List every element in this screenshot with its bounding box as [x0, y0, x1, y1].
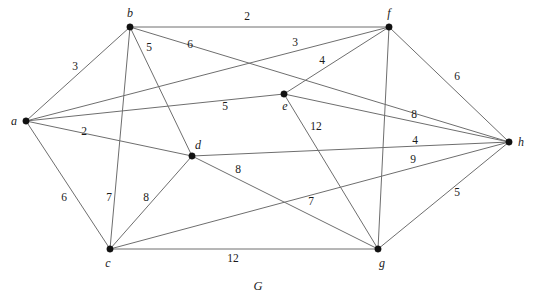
graph-vertex-a [23, 118, 29, 124]
edge-weight-bc: 7 [106, 192, 112, 204]
edge-weight-dg: 8 [235, 164, 241, 176]
figure-caption: G [253, 280, 262, 293]
graph-canvas [0, 0, 533, 303]
graph-vertex-c [107, 246, 113, 252]
graph-vertex-f [386, 24, 392, 30]
edge-weight-ae: 5 [222, 101, 228, 113]
edge-weight-ef: 4 [319, 55, 325, 67]
edge-weight-cd: 8 [143, 192, 149, 204]
edge-weight-cg: 12 [227, 253, 239, 265]
edge-weight-ab: 3 [72, 61, 78, 73]
vertex-label-g: g [379, 257, 385, 269]
vertex-label-e: e [282, 100, 287, 112]
graph-edge-fg [378, 27, 389, 249]
edges-group [26, 27, 509, 249]
edge-weight-ad: 2 [81, 126, 87, 138]
vertex-label-h: h [518, 136, 524, 148]
edge-weight-bh: 6 [187, 39, 193, 51]
graph-edge-fh [389, 27, 509, 142]
graph-edge-eh [284, 94, 509, 142]
graph-edge-dh [192, 142, 509, 156]
edge-weight-bf: 2 [244, 11, 250, 23]
edge-weight-ch: 9 [410, 154, 416, 166]
graph-edge-ab [26, 27, 130, 121]
edge-weight-eg: 12 [310, 121, 322, 133]
graph-vertex-e [281, 91, 287, 97]
graph-edge-ef [284, 27, 389, 94]
weighted-graph-figure: 3625327568129844128675abcdefghG [0, 0, 533, 303]
vertex-label-c: c [105, 257, 110, 269]
vertex-label-f: f [387, 7, 390, 19]
edge-weight-gh: 5 [454, 187, 460, 199]
graph-edge-bc [110, 27, 130, 249]
edge-weight-fg: 7 [308, 196, 314, 208]
graph-edge-af [26, 27, 389, 121]
edge-weight-ac: 6 [61, 192, 67, 204]
edge-weight-bd: 5 [146, 42, 152, 54]
edge-weight-af: 3 [292, 37, 298, 49]
graph-edge-ae [26, 94, 284, 121]
vertex-label-b: b [127, 7, 133, 19]
graph-vertex-h [506, 139, 512, 145]
graph-vertex-d [189, 153, 195, 159]
vertex-label-d: d [195, 139, 201, 151]
graph-vertex-b [127, 24, 133, 30]
graph-edge-gh [378, 142, 509, 249]
vertex-label-a: a [11, 115, 17, 127]
edge-weight-eh: 8 [411, 109, 417, 121]
graph-edge-cd [110, 156, 192, 249]
graph-edge-ad [26, 121, 192, 156]
edge-weight-dh: 4 [412, 135, 418, 147]
graph-edge-ac [26, 121, 110, 249]
graph-vertex-g [375, 246, 381, 252]
edge-weight-fh: 6 [454, 71, 460, 83]
